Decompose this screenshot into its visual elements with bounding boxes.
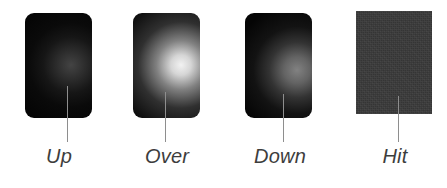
state-hit-grain-texture — [356, 11, 432, 114]
state-over-label: Over — [130, 145, 204, 168]
state-up-label: Up — [24, 145, 94, 168]
state-hit-swatch — [356, 11, 432, 114]
state-over-leader-line — [165, 92, 166, 142]
state-down-label: Down — [239, 145, 321, 168]
state-hit-leader-line — [398, 96, 399, 142]
state-up-swatch — [25, 13, 92, 118]
state-up-glow — [25, 13, 92, 118]
button-states-diagram: Up Over Down Hit — [0, 0, 447, 188]
state-hit-label: Hit — [360, 145, 430, 168]
state-over-swatch — [133, 13, 200, 118]
state-over-glow — [133, 13, 200, 118]
state-down-leader-line — [283, 94, 284, 142]
state-up-leader-line — [67, 86, 68, 142]
state-down-swatch — [245, 13, 312, 118]
state-down-glow — [245, 13, 312, 118]
